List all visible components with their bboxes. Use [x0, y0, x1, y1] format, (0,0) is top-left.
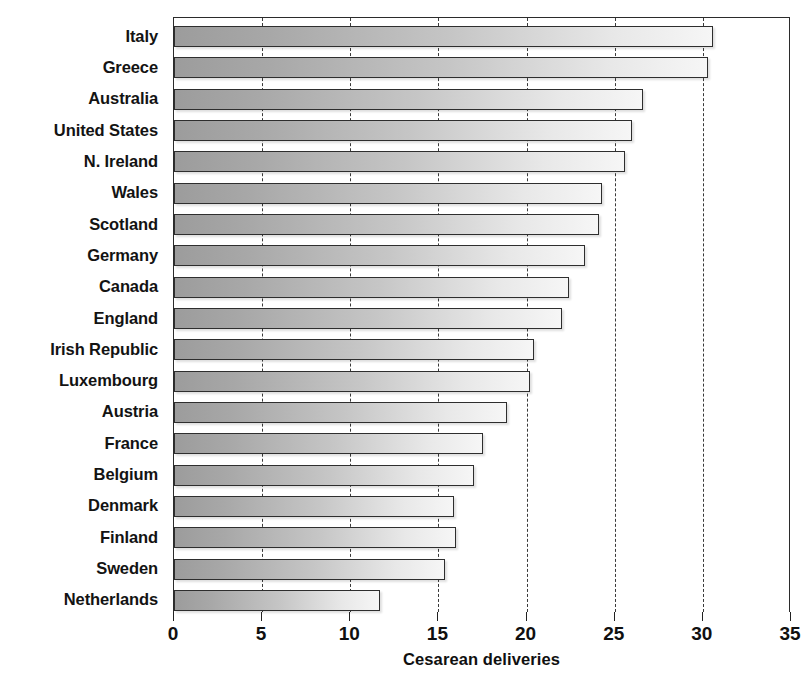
bar-row [174, 402, 789, 423]
bar-row [174, 151, 789, 172]
bar-row [174, 120, 789, 141]
x-tick-25 [614, 612, 615, 621]
bar-row [174, 277, 789, 298]
x-tick-label-10: 10 [319, 624, 379, 643]
category-label-australia: Australia [0, 90, 158, 107]
x-tick-30 [702, 612, 703, 621]
category-label-austria: Austria [0, 403, 158, 420]
category-label-scotland: Scotland [0, 216, 158, 233]
bar-row [174, 496, 789, 517]
bar-row [174, 183, 789, 204]
bar-row [174, 371, 789, 392]
bar-series [174, 18, 789, 612]
x-tick-label-5: 5 [231, 624, 291, 643]
bar-row [174, 465, 789, 486]
bar-luxembourg [174, 371, 530, 392]
bar-row [174, 89, 789, 110]
x-tick-0 [173, 612, 174, 621]
bar-england [174, 308, 562, 329]
bar-australia [174, 89, 643, 110]
x-tick-label-20: 20 [496, 624, 556, 643]
bar-row [174, 245, 789, 266]
x-tick-35 [790, 612, 791, 621]
bar-row [174, 308, 789, 329]
bar-sweden [174, 559, 445, 580]
x-tick-label-15: 15 [407, 624, 467, 643]
bar-netherlands [174, 590, 380, 611]
x-axis: 05101520253035 [173, 612, 790, 613]
category-axis-labels: ItalyGreeceAustraliaUnited StatesN. Irel… [0, 17, 166, 612]
bar-denmark [174, 496, 454, 517]
bar-united-states [174, 120, 632, 141]
x-tick-15 [437, 612, 438, 621]
category-label-france: France [0, 435, 158, 452]
bar-belgium [174, 465, 474, 486]
category-label-wales: Wales [0, 184, 158, 201]
category-label-finland: Finland [0, 529, 158, 546]
bar-row [174, 339, 789, 360]
bar-finland [174, 527, 456, 548]
x-tick-10 [349, 612, 350, 621]
category-label-irish-republic: Irish Republic [0, 341, 158, 358]
category-label-greece: Greece [0, 59, 158, 76]
bar-scotland [174, 214, 599, 235]
plot-area [173, 17, 790, 612]
x-tick-20 [526, 612, 527, 621]
bar-italy [174, 26, 713, 47]
cesarean-deliveries-bar-chart: ItalyGreeceAustraliaUnited StatesN. Irel… [0, 0, 812, 679]
bar-austria [174, 402, 507, 423]
bar-wales [174, 183, 602, 204]
category-label-united-states: United States [0, 122, 158, 139]
bar-row [174, 527, 789, 548]
bar-france [174, 433, 483, 454]
category-label-denmark: Denmark [0, 497, 158, 514]
x-axis-title: Cesarean deliveries [173, 650, 790, 669]
x-tick-5 [261, 612, 262, 621]
bar-germany [174, 245, 585, 266]
category-label-sweden: Sweden [0, 560, 158, 577]
bar-canada [174, 277, 569, 298]
category-label-germany: Germany [0, 247, 158, 264]
x-tick-label-30: 30 [672, 624, 732, 643]
category-label-belgium: Belgium [0, 466, 158, 483]
bar-row [174, 214, 789, 235]
category-label-netherlands: Netherlands [0, 591, 158, 608]
category-label-n-ireland: N. Ireland [0, 153, 158, 170]
category-label-england: England [0, 310, 158, 327]
bar-n-ireland [174, 151, 625, 172]
bar-row [174, 57, 789, 78]
bar-row [174, 433, 789, 454]
bar-row [174, 26, 789, 47]
category-label-italy: Italy [0, 28, 158, 45]
x-tick-label-35: 35 [760, 624, 812, 643]
bar-row [174, 590, 789, 611]
x-tick-label-0: 0 [143, 624, 203, 643]
x-tick-label-25: 25 [584, 624, 644, 643]
bar-greece [174, 57, 708, 78]
category-label-canada: Canada [0, 278, 158, 295]
category-label-luxembourg: Luxembourg [0, 372, 158, 389]
bar-row [174, 559, 789, 580]
bar-irish-republic [174, 339, 534, 360]
